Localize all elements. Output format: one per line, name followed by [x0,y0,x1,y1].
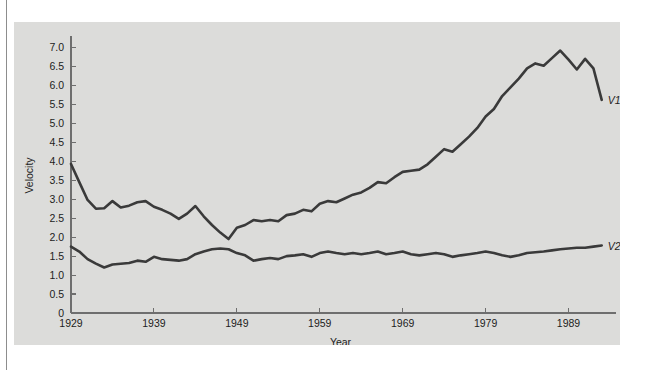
series-label-v1: V1 [608,94,620,106]
x-tick-label: 1949 [225,317,249,329]
page-canvas: 00.51.01.52.02.53.03.54.04.55.05.56.06.5… [0,0,646,370]
x-axis-title: Year [330,336,352,345]
series-line-v1 [71,51,602,240]
y-tick-label: 5.5 [49,98,64,110]
series-line-v2 [71,245,602,267]
y-tick-label: 1.0 [49,269,64,281]
x-tick-label: 1979 [474,317,498,329]
series-labels: V1V2 [608,94,620,252]
y-tick-label: 1.5 [49,250,64,262]
y-tick-label: 0.5 [49,288,64,300]
y-axis: 00.51.01.52.02.53.03.54.04.55.05.56.06.5… [49,41,76,319]
y-tick-label: 4.5 [49,136,64,148]
y-tick-label: 6.5 [49,60,64,72]
x-tick-label: 1929 [59,317,83,329]
series-label-v2: V2 [608,240,620,252]
y-tick-label: 3.0 [49,193,64,205]
x-tick-label: 1959 [308,317,332,329]
series-lines [71,51,602,268]
y-tick-label: 4.0 [49,155,64,167]
page-left-rule [6,0,7,370]
figure-panel: 00.51.01.52.02.53.03.54.04.55.05.56.06.5… [14,22,620,345]
y-tick-label: 3.5 [49,174,64,186]
x-tick-label: 1969 [391,317,415,329]
y-tick-label: 6.0 [49,79,64,91]
y-tick-label: 2.5 [49,212,64,224]
x-tick-label: 1989 [557,317,581,329]
y-tick-label: 5.0 [49,117,64,129]
x-axis: 1929193919491959196919791989 [59,308,580,329]
x-tick-label: 1939 [142,317,166,329]
y-axis-title: Velocity [23,157,35,194]
y-tick-label: 2.0 [49,231,64,243]
y-tick-label: 7.0 [49,41,64,53]
line-chart: 00.51.01.52.02.53.03.54.04.55.05.56.06.5… [14,22,620,345]
